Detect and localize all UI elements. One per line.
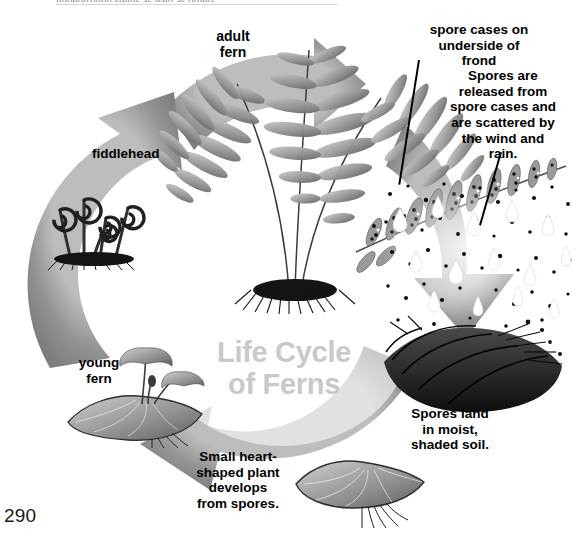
running-head: underground stems as well as others xyxy=(56,0,356,2)
label-adult-fern-line-2: fern xyxy=(196,44,270,60)
label-spore-cases-line-3: frond xyxy=(404,53,554,69)
label-spores-land: Spores land in moist, shaded soil. xyxy=(396,406,504,453)
label-heart-line-4: from spores. xyxy=(172,496,304,512)
label-spores-released-line-1: Spores are xyxy=(428,68,578,84)
label-spores-land-line-1: Spores land xyxy=(396,406,504,422)
label-spores-land-line-2: in moist, xyxy=(396,422,504,438)
label-adult-fern: adult fern xyxy=(196,28,270,60)
header-rule xyxy=(56,4,338,5)
label-spores-released-line-4: are scattered by xyxy=(428,115,578,131)
illustration-shaded-soil xyxy=(378,300,568,420)
label-fiddlehead: fiddlehead xyxy=(92,146,184,162)
illustration-fiddleheads xyxy=(32,160,162,270)
label-spore-cases-line-1: spore cases on xyxy=(404,22,554,38)
fern-life-cycle-page: underground stems as well as others xyxy=(0,0,585,539)
label-spores-released-line-5: the wind and xyxy=(428,131,578,147)
label-spores-land-line-3: shaded soil. xyxy=(396,437,504,453)
label-heart-line-2: shaped plant xyxy=(172,465,304,481)
fern-root-crown xyxy=(235,279,355,314)
label-spore-cases-line-2: underside of xyxy=(404,38,554,54)
label-spores-released-line-6: rain. xyxy=(428,146,578,162)
label-adult-fern-line-1: adult xyxy=(196,28,270,44)
illustration-prothallus xyxy=(282,450,432,530)
label-young-fern-line-1: young xyxy=(62,355,136,371)
label-heart-line-1: Small heart- xyxy=(172,449,304,465)
label-young-fern-line-2: fern xyxy=(62,371,136,387)
label-heart-shaped-plant: Small heart- shaped plant develops from … xyxy=(172,449,304,512)
fiddlehead-base xyxy=(48,252,134,270)
label-heart-line-3: develops xyxy=(172,480,304,496)
label-spores-released: Spores are released from spore cases and… xyxy=(428,68,578,162)
page-number: 290 xyxy=(4,505,36,527)
label-spores-released-line-2: released from xyxy=(428,84,578,100)
label-spores-released-line-3: spore cases and xyxy=(428,99,578,115)
label-young-fern: young fern xyxy=(62,355,136,386)
label-spore-cases: spore cases on underside of frond xyxy=(404,22,554,69)
